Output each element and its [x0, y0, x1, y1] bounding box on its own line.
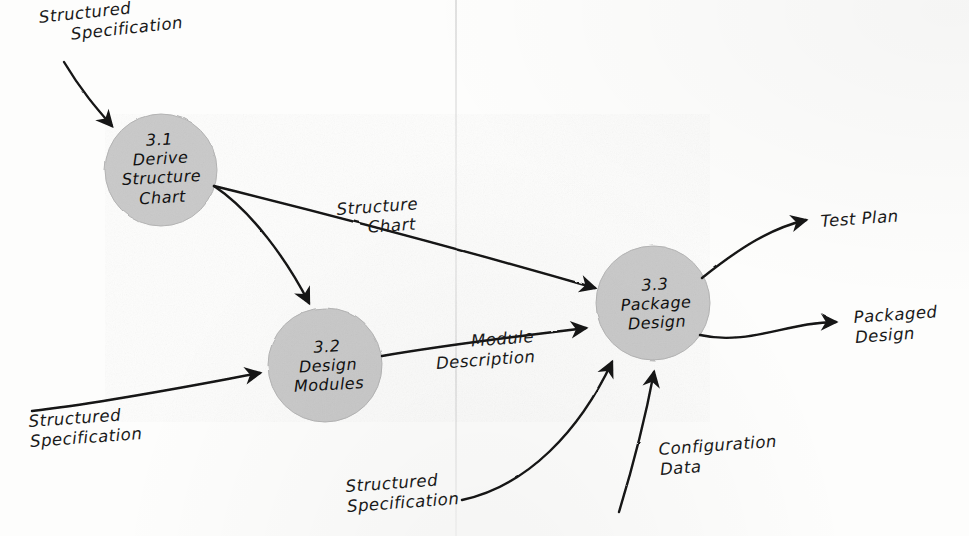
flow-label-packaged-design: Packaged Design [853, 302, 939, 347]
flow-label-structured-specification-bottom: Structured Specification [345, 469, 460, 516]
process-label-3-2: 3.2 Design Modules [257, 333, 400, 398]
arrow-struct-spec-left [32, 373, 260, 411]
diagram-artwork [0, 0, 969, 536]
arrow-test-plan [702, 220, 806, 278]
flow-label-structure-chart: StructureChart [336, 194, 420, 239]
process-label-3-3: 3.3 Package Design [585, 271, 728, 336]
diagram-canvas: 3.1 Derive Structure Chart 3.2 Design Mo… [0, 0, 969, 536]
arrow-struct-spec-top [64, 62, 112, 126]
flow-label-structured-specification-left: Structured Specification [28, 404, 143, 451]
flow-label-configuration-data: Configuration Data [658, 432, 779, 480]
arrow-3-1-to-3-2 [214, 186, 309, 303]
arrow-struct-spec-bottom [462, 362, 612, 500]
arrow-configuration-data [619, 372, 654, 512]
flow-label-module-description: Module Description [434, 327, 536, 373]
process-label-3-1: 3.1 Derive Structure Chart [89, 126, 233, 210]
